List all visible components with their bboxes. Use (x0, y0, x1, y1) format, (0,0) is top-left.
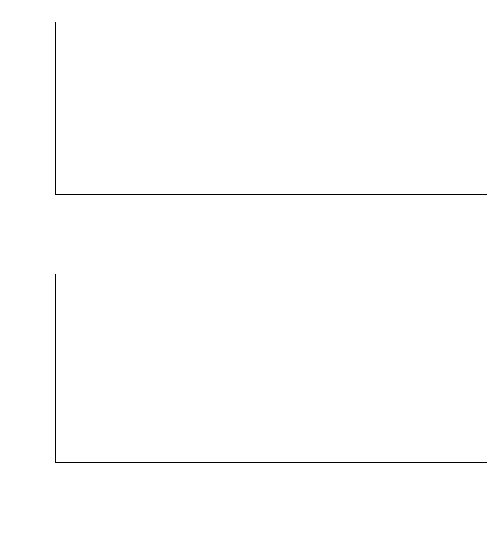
trends-and-pressures-index-chart (0, 268, 494, 538)
plot-area-tpi (55, 274, 487, 463)
bar-series-bci (55, 22, 487, 195)
plot-area-bci (55, 22, 487, 195)
blue-city-index-chart (0, 0, 494, 268)
bar-series-tpi (55, 274, 487, 463)
